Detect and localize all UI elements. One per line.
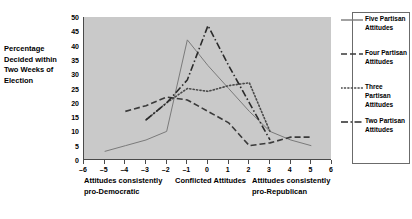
- x-tick-mark: [331, 160, 332, 164]
- series-lines: [84, 17, 332, 160]
- y-tick-label: 40: [71, 42, 79, 49]
- x-tick-mark: [166, 160, 167, 164]
- x-tick-mark: [104, 160, 105, 164]
- series-line-4: [146, 26, 270, 140]
- x-tick-mark: [83, 160, 84, 164]
- x-tick-mark: [248, 160, 249, 164]
- legend-item-label: Two Partisan Attitudes: [365, 116, 409, 134]
- x-tick-label: 4: [288, 166, 292, 174]
- y-axis-caption: Percentage Decided within Two Weeks of E…: [4, 44, 62, 86]
- x-tick-label: –1: [182, 166, 190, 174]
- legend-line-swatch-icon: [341, 121, 363, 123]
- legend-line-swatch-icon: [341, 19, 363, 21]
- x-tick-label: –6: [79, 166, 87, 174]
- y-tick-label: 45: [71, 28, 79, 35]
- series-line-2: [125, 97, 311, 146]
- legend-item-3[interactable]: Three Partisan Attitudes: [353, 84, 409, 118]
- y-tick-label: 10: [71, 128, 79, 135]
- legend-item-label: Five Partisan Attitudes: [365, 14, 409, 32]
- y-tick-label: 35: [71, 56, 79, 63]
- legend-item-label: Three Partisan Attitudes: [365, 82, 409, 109]
- x-tick-label: –2: [162, 166, 170, 174]
- y-tick-label: 50: [71, 14, 79, 21]
- x-tick-label: 3: [267, 166, 271, 174]
- x-tick-mark: [145, 160, 146, 164]
- chart-figure: Percentage Decided within Two Weeks of E…: [0, 0, 412, 219]
- chart-legend: Five Partisan AttitudesFour Partisan Att…: [352, 12, 410, 164]
- y-tick-label: 0: [75, 157, 79, 164]
- x-tick-mark: [310, 160, 311, 164]
- legend-item-4[interactable]: Two Partisan Attitudes: [353, 118, 409, 152]
- x-tick-mark: [228, 160, 229, 164]
- annotation-left: Attitudes consistently pro-Democratic: [84, 176, 174, 197]
- y-tick-label: 20: [71, 99, 79, 106]
- legend-item-label: Four Partisan Attitudes: [365, 48, 409, 66]
- y-tick-label: 25: [71, 85, 79, 92]
- annotation-right: Attitudes consistently pro-Republican: [252, 176, 342, 197]
- x-tick-mark: [124, 160, 125, 164]
- x-tick-mark: [290, 160, 291, 164]
- y-tick-label: 30: [71, 71, 79, 78]
- x-tick-label: –4: [120, 166, 128, 174]
- y-tick-label: 15: [71, 114, 79, 121]
- x-tick-label: 0: [205, 166, 209, 174]
- x-axis-tick-marks: [83, 160, 331, 165]
- y-tick-label: 5: [75, 142, 79, 149]
- x-tick-label: 6: [329, 166, 333, 174]
- legend-item-1[interactable]: Five Partisan Attitudes: [353, 16, 409, 50]
- x-tick-mark: [207, 160, 208, 164]
- x-tick-mark: [269, 160, 270, 164]
- x-tick-mark: [186, 160, 187, 164]
- x-tick-label: –5: [100, 166, 108, 174]
- legend-line-swatch-icon: [341, 87, 363, 89]
- series-line-1: [105, 40, 312, 152]
- plot-region: [83, 17, 331, 160]
- x-tick-label: 1: [226, 166, 230, 174]
- y-axis-tick-labels: 05101520253035404550: [62, 12, 81, 164]
- x-tick-label: 5: [308, 166, 312, 174]
- chart-area: 05101520253035404550 –6–5–4–3–2–10123456: [62, 12, 334, 164]
- x-tick-label: –3: [141, 166, 149, 174]
- legend-item-2[interactable]: Four Partisan Attitudes: [353, 50, 409, 84]
- x-tick-label: 2: [246, 166, 250, 174]
- legend-line-swatch-icon: [341, 53, 363, 55]
